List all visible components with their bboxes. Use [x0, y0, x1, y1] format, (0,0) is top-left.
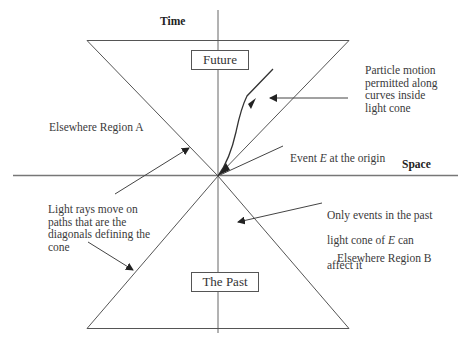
- past-events-annotation: Only events in the past light cone of E …: [327, 196, 432, 284]
- past-events-symbol: E: [388, 234, 395, 246]
- event-origin-prefix: Event: [290, 152, 320, 164]
- past-events-line-3: affect it: [327, 259, 432, 272]
- particle-worldline: [218, 69, 273, 176]
- time-axis-label: Time: [160, 15, 185, 28]
- past-region-label: The Past: [191, 272, 259, 292]
- event-symbol: E: [320, 152, 327, 164]
- event-origin-annotation: Event E at the origin: [290, 139, 385, 164]
- space-axis-label: Space: [402, 158, 431, 171]
- pointer-event-origin: [220, 146, 283, 175]
- event-origin-suffix: at the origin: [327, 152, 385, 164]
- worldline-arrowhead-icon: [248, 98, 256, 109]
- past-events-line-2-suffix: can: [395, 234, 414, 246]
- past-events-line-1: Only events in the past: [327, 209, 432, 222]
- pointer-past-events: [238, 203, 322, 222]
- past-events-line-2: light cone of E can: [327, 234, 432, 247]
- elsewhere-region-a-label: Elsewhere Region A: [49, 121, 144, 134]
- pointer-light-rays-upper: [115, 148, 189, 194]
- light-rays-annotation: Light rays move on paths that are the di…: [48, 203, 150, 253]
- future-region-label: Future: [191, 50, 249, 70]
- past-events-line-2-prefix: light cone of: [327, 234, 388, 246]
- particle-motion-annotation: Particle motion permitted along curves i…: [365, 64, 438, 114]
